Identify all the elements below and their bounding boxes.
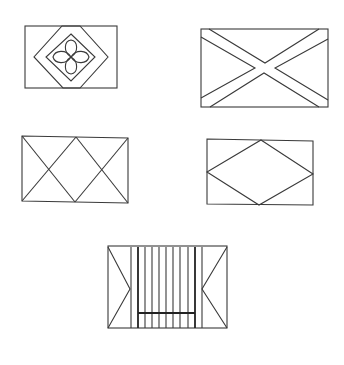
fig4-diamond	[207, 140, 313, 205]
figure-saltire	[201, 29, 328, 107]
fig5-frame	[108, 246, 227, 328]
figure-inscribed-diamond	[207, 139, 313, 205]
figure-zigzag-lattice	[22, 136, 128, 203]
diagram-canvas	[0, 0, 344, 365]
fig2-frame	[201, 29, 328, 107]
figure-diamond-quatrefoil	[25, 26, 117, 88]
fig4-frame	[207, 139, 313, 205]
figure-striped-panel	[108, 246, 227, 328]
fig3-frame	[22, 136, 128, 203]
